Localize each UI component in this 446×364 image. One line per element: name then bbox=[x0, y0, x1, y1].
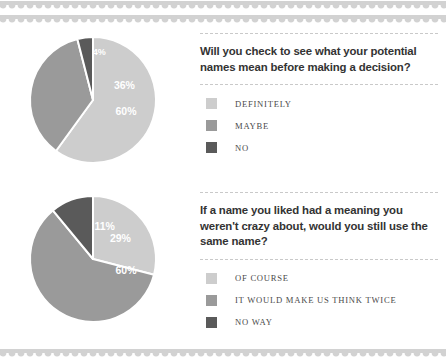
legend-swatch-icon bbox=[206, 120, 217, 131]
pie-slice-value-label: 60% bbox=[115, 105, 137, 117]
pie-chart: 60%36%4% bbox=[25, 32, 161, 172]
divider-rule-top bbox=[200, 192, 438, 194]
legend-swatch-icon bbox=[206, 317, 217, 328]
legend-item[interactable]: DEFINITELY bbox=[200, 97, 440, 110]
divider-rule-bottom bbox=[200, 259, 438, 261]
scallop-border-bottom bbox=[0, 349, 446, 358]
survey-section: 60%36%4% Will you check to see what your… bbox=[0, 26, 446, 185]
divider-rule-bottom bbox=[200, 84, 438, 86]
pie-slice-value-label: 60% bbox=[115, 264, 137, 276]
legend-item[interactable]: MAYBE bbox=[200, 119, 440, 132]
legend-swatch-icon bbox=[206, 295, 217, 306]
chart-legend: OF COURSE IT WOULD MAKE US THINK TWICE N… bbox=[200, 272, 440, 329]
pie-slice-value-label: 29% bbox=[110, 232, 132, 244]
pie-slice-value-label: 4% bbox=[93, 47, 106, 57]
legend-item-label: IT WOULD MAKE US THINK TWICE bbox=[235, 295, 396, 305]
scallop-border-top-outer bbox=[0, 1, 446, 10]
question-text: If a name you liked had a meaning you we… bbox=[200, 203, 436, 250]
pie-chart: 29%60%11% bbox=[25, 191, 161, 331]
question-column: If a name you liked had a meaning you we… bbox=[200, 185, 440, 344]
legend-item-label: MAYBE bbox=[235, 121, 269, 131]
scallop-border-top-inner bbox=[0, 15, 446, 24]
legend-item-label: NO bbox=[235, 143, 249, 153]
legend-item-label: NO WAY bbox=[235, 317, 273, 327]
legend-item[interactable]: NO WAY bbox=[200, 316, 440, 329]
legend-swatch-icon bbox=[206, 98, 217, 109]
legend-item-label: DEFINITELY bbox=[235, 99, 292, 109]
survey-sheet: 60%36%4% Will you check to see what your… bbox=[0, 26, 446, 344]
legend-item-label: OF COURSE bbox=[235, 273, 289, 283]
question-column: Will you check to see what your potentia… bbox=[200, 26, 440, 185]
divider-rule-top bbox=[200, 33, 438, 35]
pie-slice-value-label: 36% bbox=[114, 79, 136, 91]
chart-legend: DEFINITELY MAYBE NO bbox=[200, 97, 440, 154]
legend-item[interactable]: IT WOULD MAKE US THINK TWICE bbox=[200, 294, 440, 307]
legend-item[interactable]: NO bbox=[200, 141, 440, 154]
survey-section: 29%60%11% If a name you liked had a mean… bbox=[0, 185, 446, 344]
legend-swatch-icon bbox=[206, 273, 217, 284]
legend-swatch-icon bbox=[206, 142, 217, 153]
legend-item[interactable]: OF COURSE bbox=[200, 272, 440, 285]
question-text: Will you check to see what your potentia… bbox=[200, 44, 436, 75]
pie-slice-value-label: 11% bbox=[94, 220, 115, 232]
